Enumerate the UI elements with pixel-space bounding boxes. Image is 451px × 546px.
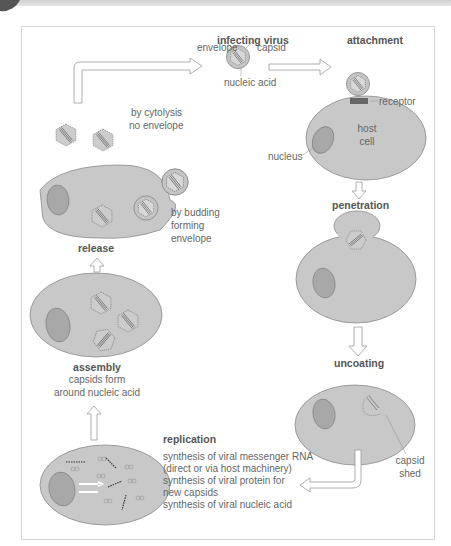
host-cell-label-line2: cell — [355, 136, 379, 148]
assembly-title: assembly — [50, 361, 144, 373]
nucleus-label: nucleus — [268, 151, 302, 163]
replication-line-1: synthesis of viral messenger RNA — [163, 451, 313, 463]
cytolysis-line-1: by cytolysis — [131, 107, 182, 119]
arrow-to-assembly — [87, 406, 101, 440]
arrow-to-attachment — [269, 59, 331, 75]
cytolysis-line-2: no envelope — [129, 120, 184, 132]
replication-line-5: synthesis of viral nucleic acid — [163, 499, 292, 511]
arrow-to-uncoating — [349, 327, 367, 356]
capsid-shed-label-line1: capsid — [393, 455, 427, 467]
replication-title: replication — [163, 433, 216, 445]
assembly-cell — [30, 273, 162, 357]
assembly-line-1: capsids form — [40, 374, 154, 386]
replication-cell — [40, 445, 170, 525]
attachment-title: attachment — [347, 34, 403, 46]
budding-line-2: forming — [171, 220, 204, 232]
arrow-to-release — [90, 258, 104, 272]
penetration-title: penetration — [332, 199, 389, 211]
capsid-shed-label-line2: shed — [393, 468, 427, 480]
receptor-label: receptor — [379, 96, 416, 108]
replication-line-2: (direct or via host machinery) — [163, 463, 292, 475]
arrow-to-penetration — [352, 182, 366, 199]
uncoating-title: uncoating — [334, 357, 384, 369]
assembly-line-2: around nucleic acid — [40, 387, 154, 399]
release-title: release — [60, 242, 132, 254]
replication-line-4: new capsids — [163, 487, 218, 499]
budding-line-3: envelope — [171, 233, 212, 245]
budding-line-1: by budding — [171, 207, 220, 219]
penetration-cell — [296, 211, 416, 323]
capsid-label: capsid — [257, 42, 286, 54]
host-cell-label-line1: host — [355, 123, 379, 135]
envelope-label: envelope — [197, 42, 238, 54]
release-cell — [40, 124, 188, 238]
arrow-release-to-infecting — [74, 58, 202, 103]
replication-line-3: synthesis of viral protein for — [163, 475, 285, 487]
nucleic-acid-label: nucleic acid — [224, 77, 276, 89]
